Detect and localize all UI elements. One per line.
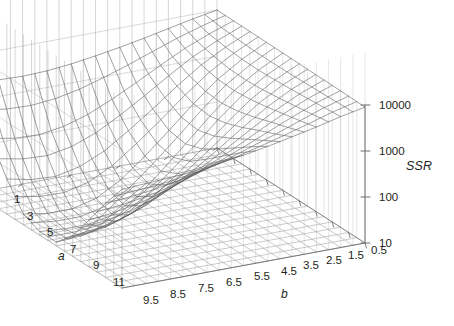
y-axis-title: b	[281, 287, 288, 301]
b-tick-2.5: 2.5	[326, 254, 342, 266]
b-tick-5.5: 5.5	[254, 270, 270, 282]
b-tick-0.5: 0.5	[371, 244, 387, 256]
z-tick-1000: 1000	[379, 145, 405, 157]
a-tick-7: 7	[70, 243, 76, 255]
a-tick-9: 9	[93, 259, 99, 271]
b-tick-7.5: 7.5	[198, 282, 214, 294]
z-tick-10000: 10000	[379, 99, 411, 111]
a-tick-1: 1	[14, 193, 20, 205]
z-axis-title: SSR	[406, 159, 432, 173]
a-tick-11: 11	[113, 276, 125, 288]
b-tick-1.5: 1.5	[348, 249, 364, 261]
b-tick-8.5: 8.5	[170, 288, 186, 300]
a-tick-3: 3	[27, 210, 33, 222]
b-tick-9.5: 9.5	[143, 294, 159, 306]
a-tick-5: 5	[47, 226, 53, 238]
z-tick-100: 100	[379, 191, 398, 203]
b-tick-6.5: 6.5	[226, 276, 242, 288]
b-tick-4.5: 4.5	[281, 265, 297, 277]
b-tick-3.5: 3.5	[303, 259, 319, 271]
x-axis-title: a	[58, 249, 65, 263]
